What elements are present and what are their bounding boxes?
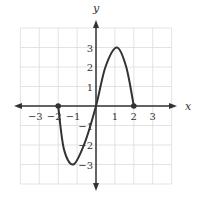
x-tick-label: 1	[112, 111, 118, 122]
x-axis-label: x	[185, 100, 192, 113]
y-tick-label: −3	[78, 160, 93, 171]
x-arrow-right-icon	[169, 103, 177, 109]
function-graph: −3−2−1123 321−1−2−3 x y	[0, 0, 200, 199]
x-tick-label: −2	[47, 111, 62, 122]
x-tick-label: −3	[28, 111, 43, 122]
y-arrow-down-icon	[93, 183, 99, 191]
y-tick-label: 3	[87, 43, 93, 54]
y-tick-label: −2	[78, 140, 93, 151]
x-arrow-left-icon	[14, 103, 22, 109]
endpoint-dot	[55, 103, 61, 109]
x-tick-label: 3	[150, 111, 156, 122]
endpoint-dot	[131, 103, 137, 109]
y-arrow-up-icon	[93, 20, 99, 28]
x-tick-label: 2	[131, 111, 137, 122]
y-axis-label: y	[92, 2, 100, 15]
y-tick-label: −1	[78, 121, 93, 132]
y-tick-label: 2	[87, 62, 93, 73]
y-tick-label: 1	[87, 82, 93, 93]
